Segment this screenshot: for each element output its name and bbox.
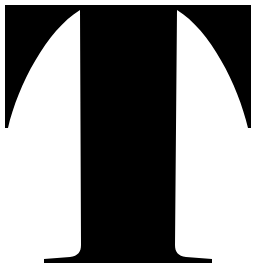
letter-t-glyph: T xyxy=(0,0,259,268)
t-glyph-icon xyxy=(0,0,259,268)
